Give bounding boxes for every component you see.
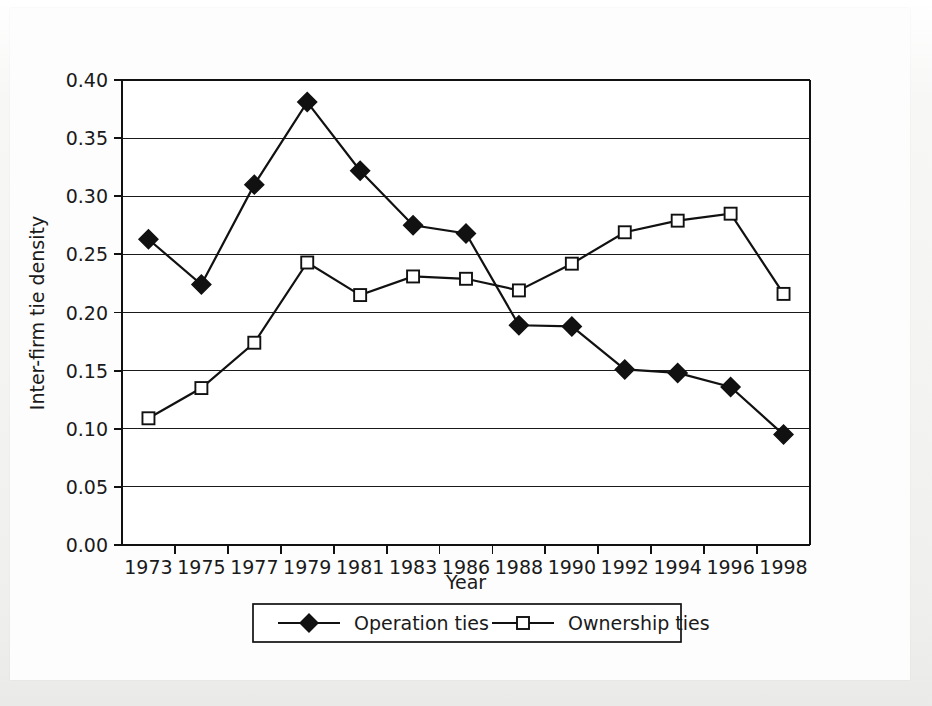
- y-tick-label: 0.20: [66, 302, 108, 324]
- data-point-marker: [513, 284, 525, 296]
- data-point-marker: [354, 289, 366, 301]
- data-point-marker: [619, 226, 631, 238]
- data-point-marker: [460, 273, 472, 285]
- x-tick-label: 1979: [283, 556, 331, 578]
- y-tick-label: 0.10: [66, 418, 108, 440]
- y-axis-ticks: [114, 80, 122, 545]
- x-tick-label: 1983: [389, 556, 437, 578]
- data-point-marker: [672, 215, 684, 227]
- data-point-marker: [566, 258, 578, 270]
- x-tick-label: 1996: [706, 556, 754, 578]
- x-tick-label: 1975: [177, 556, 225, 578]
- y-tick-label: 0.30: [66, 185, 108, 207]
- x-axis-ticks: [175, 545, 757, 554]
- y-axis-title: Inter-firm tie density: [26, 216, 48, 410]
- x-tick-label: 1981: [336, 556, 384, 578]
- data-point-marker: [248, 337, 260, 349]
- data-point-marker: [407, 270, 419, 282]
- figure-container: 0.000.050.100.150.200.250.300.350.40 197…: [0, 0, 932, 706]
- x-tick-label: 1994: [654, 556, 702, 578]
- line-chart: 0.000.050.100.150.200.250.300.350.40 197…: [0, 0, 932, 706]
- y-tick-label: 0.00: [66, 534, 108, 556]
- y-axis-tick-labels: 0.000.050.100.150.200.250.300.350.40: [66, 69, 108, 556]
- x-axis-title: Year: [445, 571, 486, 593]
- y-tick-label: 0.35: [66, 127, 108, 149]
- y-tick-label: 0.40: [66, 69, 108, 91]
- data-point-marker: [725, 208, 737, 220]
- legend-sample-marker: [517, 617, 529, 629]
- y-tick-label: 0.25: [66, 243, 108, 265]
- data-point-marker: [142, 412, 154, 424]
- x-tick-label: 1992: [601, 556, 649, 578]
- data-point-marker: [195, 382, 207, 394]
- legend-label: Ownership ties: [568, 612, 710, 634]
- x-tick-label: 1977: [230, 556, 278, 578]
- x-tick-label: 1998: [759, 556, 807, 578]
- y-tick-label: 0.15: [66, 360, 108, 382]
- y-tick-label: 0.05: [66, 476, 108, 498]
- data-point-marker: [301, 257, 313, 269]
- x-tick-label: 1990: [548, 556, 596, 578]
- x-tick-label: 1973: [124, 556, 172, 578]
- data-point-marker: [778, 288, 790, 300]
- chart-legend: Operation tiesOwnership ties: [253, 604, 710, 642]
- x-tick-label: 1988: [495, 556, 543, 578]
- legend-label: Operation ties: [354, 612, 489, 634]
